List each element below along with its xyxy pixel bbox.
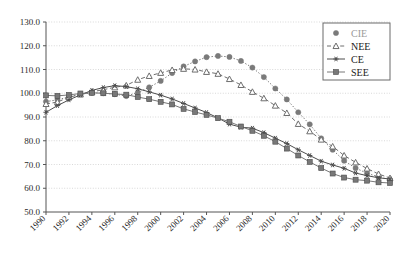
data-marker (273, 139, 278, 144)
data-marker (307, 159, 312, 164)
data-marker (215, 53, 220, 58)
legend: CIENEECESEE (323, 23, 390, 80)
data-marker (342, 175, 347, 180)
x-tick-label: 2010 (257, 213, 277, 233)
data-marker (333, 30, 338, 35)
data-marker (227, 119, 232, 124)
chart-container: 130.0120.0110.0100.090.080.070.060.050.0… (0, 0, 398, 268)
data-marker (353, 177, 358, 182)
data-marker (365, 178, 370, 183)
x-tick-label: 2018 (349, 213, 369, 233)
x-tick-label: 2008 (234, 213, 254, 233)
data-marker (78, 91, 83, 96)
line-chart: 130.0120.0110.0100.090.080.070.060.050.0… (0, 0, 398, 268)
data-marker (250, 65, 255, 70)
x-tick-label: 1992 (51, 213, 71, 233)
y-tick-label: 80.0 (24, 136, 40, 146)
y-tick-label: 130.0 (20, 17, 41, 27)
x-tick-label: 1996 (96, 213, 116, 233)
x-tick-label: 2020 (372, 213, 392, 233)
data-marker (334, 70, 339, 75)
data-marker (250, 128, 255, 133)
data-marker (192, 59, 197, 64)
data-marker (388, 181, 393, 186)
data-marker (296, 153, 301, 158)
data-marker (273, 86, 278, 91)
y-tick-label: 120.0 (20, 41, 41, 51)
data-marker (44, 93, 49, 98)
data-marker (238, 124, 243, 129)
data-marker (284, 146, 289, 151)
legend-label: CE (351, 54, 364, 65)
x-tick-label: 2006 (211, 213, 231, 233)
data-marker (227, 54, 232, 59)
data-marker (170, 102, 175, 107)
data-marker (261, 133, 266, 138)
data-marker (216, 116, 221, 121)
x-tick-label: 1998 (119, 213, 139, 233)
data-marker (101, 91, 106, 96)
data-marker (89, 90, 94, 95)
data-marker (112, 91, 117, 96)
y-tick-label: 90.0 (24, 112, 40, 122)
data-marker (353, 165, 358, 170)
x-tick-label: 2016 (326, 213, 346, 233)
x-tick-label: 2002 (165, 213, 185, 233)
x-axis-labels: 1990199219941996199820002002200420062008… (28, 212, 392, 233)
data-marker (181, 106, 186, 111)
data-marker (330, 171, 335, 176)
legend-label: NEE (351, 41, 370, 52)
data-marker (147, 97, 152, 102)
legend-label: CIE (351, 28, 367, 39)
data-marker (135, 95, 140, 100)
data-marker (158, 99, 163, 104)
data-marker (204, 55, 209, 60)
y-tick-label: 100.0 (20, 88, 41, 98)
data-marker (342, 158, 347, 163)
x-tick-label: 1994 (73, 213, 93, 233)
data-marker (296, 110, 301, 115)
y-axis-labels: 130.0120.0110.0100.090.080.070.060.050.0 (20, 17, 46, 217)
y-tick-label: 60.0 (24, 183, 40, 193)
data-marker (124, 92, 129, 97)
data-marker (147, 85, 152, 90)
legend-label: SEE (351, 67, 369, 78)
data-marker (376, 180, 381, 185)
data-marker (55, 93, 60, 98)
data-marker (66, 92, 71, 97)
data-marker (307, 122, 312, 127)
y-tick-label: 110.0 (20, 65, 40, 75)
data-marker (319, 166, 324, 171)
data-marker (158, 78, 163, 83)
x-tick-label: 2004 (188, 213, 208, 233)
data-marker (193, 110, 198, 115)
x-tick-label: 2000 (142, 213, 162, 233)
y-tick-label: 70.0 (24, 160, 40, 170)
data-marker (261, 75, 266, 80)
x-tick-label: 2014 (303, 213, 323, 233)
data-marker (238, 58, 243, 63)
data-marker (204, 112, 209, 117)
data-marker (284, 97, 289, 102)
x-tick-label: 2012 (280, 213, 300, 233)
